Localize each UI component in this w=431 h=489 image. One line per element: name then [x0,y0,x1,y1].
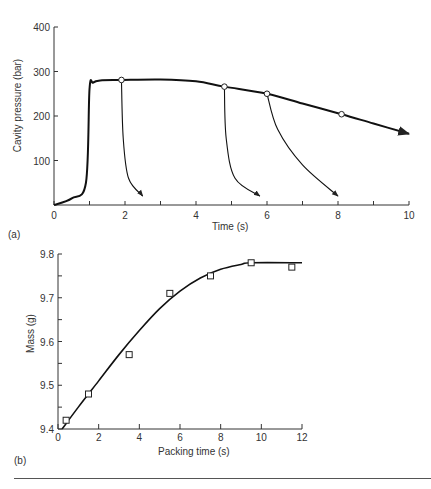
square-marker [167,290,173,296]
bottom-rule [14,478,431,479]
x-axis-label-a: Time (s) [212,221,248,232]
pressure-branch-curve [121,80,142,196]
y-tick-label-a: 100 [33,156,50,167]
x-axis-label-b: Packing time (s) [158,446,230,457]
fit-curve [62,263,302,429]
x-tick-label-b: 8 [218,432,224,443]
y-axis-label-a: Cavity pressure (bar) [12,51,23,161]
pressure-branch-curve [224,87,260,196]
y-tick-label-b: 9.6 [40,337,54,348]
x-tick-label-a: 6 [264,210,270,221]
x-tick-label-a: 0 [51,210,57,221]
square-marker [63,417,69,423]
square-marker [248,260,254,266]
y-tick-label-b: 9.7 [40,293,54,304]
figure-canvas: 02468101002003004000246810129.49.59.69.7… [0,0,431,489]
y-tick-label-b: 9.4 [40,424,54,435]
x-tick-label-b: 4 [137,432,143,443]
circle-marker [222,84,228,90]
square-marker [86,391,92,397]
y-tick-label-b: 9.8 [40,249,54,260]
circle-marker [264,91,270,97]
x-tick-label-b: 6 [177,432,183,443]
y-tick-label-a: 400 [33,22,50,33]
pressure-curve [54,79,409,205]
x-tick-label-b: 2 [96,432,102,443]
x-tick-label-a: 8 [335,210,341,221]
x-tick-label-a: 2 [122,210,128,221]
y-tick-label-b: 9.5 [40,380,54,391]
x-tick-label-b: 0 [55,432,61,443]
y-tick-label-a: 200 [33,111,50,122]
square-marker [126,352,132,358]
y-tick-label-a: 300 [33,67,50,78]
x-tick-label-b: 10 [256,432,268,443]
square-marker [289,264,295,270]
panel-label-a: (a) [8,229,20,240]
panel-label-b: (b) [14,455,26,466]
x-tick-label-a: 10 [403,210,415,221]
circle-marker [119,77,125,83]
circle-marker [339,111,345,117]
y-axis-label-b: Mass (g) [25,304,36,364]
square-marker [208,273,214,279]
x-tick-label-a: 4 [193,210,199,221]
pressure-branch-curve [267,94,338,196]
x-tick-label-b: 12 [296,432,308,443]
